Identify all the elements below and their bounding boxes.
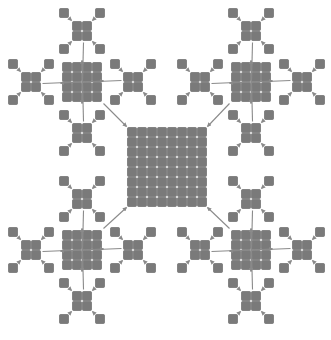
single-cell xyxy=(178,228,187,237)
cell xyxy=(158,178,167,187)
single-cell xyxy=(147,96,156,105)
cell xyxy=(188,198,197,207)
cell xyxy=(252,83,261,92)
cell xyxy=(9,96,18,105)
cell xyxy=(60,45,69,54)
cell xyxy=(178,148,187,157)
cell xyxy=(252,241,261,250)
arrow-icon xyxy=(93,210,96,213)
single-cell xyxy=(9,96,18,105)
cell xyxy=(242,231,251,240)
arrow-icon xyxy=(313,93,316,96)
cell xyxy=(63,261,72,270)
cell xyxy=(229,177,238,186)
cell xyxy=(168,158,177,167)
arrow-icon xyxy=(18,69,21,72)
single-cell xyxy=(60,279,69,288)
cell xyxy=(96,45,105,54)
cell xyxy=(242,93,251,102)
cell xyxy=(22,73,31,82)
cell xyxy=(168,178,177,187)
cell xyxy=(229,147,238,156)
cell xyxy=(262,73,271,82)
cell xyxy=(188,148,197,157)
fractal-diagram xyxy=(0,0,331,340)
single-cell xyxy=(45,60,54,69)
block-2x2 xyxy=(191,73,210,92)
cell xyxy=(148,158,157,167)
single-cell xyxy=(280,60,289,69)
cell xyxy=(147,264,156,273)
arrow-icon xyxy=(238,120,241,123)
arrow-icon xyxy=(104,208,127,229)
cell xyxy=(93,93,102,102)
cell xyxy=(124,83,133,92)
cell xyxy=(93,241,102,250)
cell xyxy=(232,83,241,92)
cell xyxy=(9,264,18,273)
cell xyxy=(124,241,133,250)
cell xyxy=(60,177,69,186)
cell xyxy=(22,251,31,260)
cell xyxy=(168,188,177,197)
cell xyxy=(232,63,241,72)
cell xyxy=(138,148,147,157)
arrow-icon xyxy=(262,144,265,147)
arrow-icon xyxy=(120,261,123,264)
single-cell xyxy=(265,279,274,288)
cell xyxy=(280,60,289,69)
cell xyxy=(252,22,261,31)
cell xyxy=(73,73,82,82)
cell xyxy=(93,73,102,82)
arrow-icon xyxy=(262,18,265,21)
cell xyxy=(147,96,156,105)
block-2x2 xyxy=(73,22,92,41)
single-cell xyxy=(229,279,238,288)
block-2x2 xyxy=(242,124,261,143)
arrow-icon xyxy=(42,261,45,264)
cell xyxy=(158,168,167,177)
cell xyxy=(252,124,261,133)
cell xyxy=(188,178,197,187)
cell xyxy=(73,292,82,301)
cell xyxy=(188,138,197,147)
cell xyxy=(252,302,261,311)
cell xyxy=(148,188,157,197)
cell xyxy=(316,96,325,105)
single-cell xyxy=(60,315,69,324)
cell xyxy=(178,128,187,137)
arrow-icon xyxy=(238,144,241,147)
cell xyxy=(148,138,157,147)
cell xyxy=(128,168,137,177)
single-cell xyxy=(96,213,105,222)
arrow-icon xyxy=(93,144,96,147)
cell xyxy=(168,198,177,207)
cell xyxy=(83,83,92,92)
block-2x2 xyxy=(22,241,41,260)
block-2x2 xyxy=(73,124,92,143)
cell xyxy=(158,128,167,137)
arrow-icon xyxy=(289,261,292,264)
single-cell xyxy=(265,213,274,222)
arrow-icon xyxy=(211,237,214,240)
cell xyxy=(262,251,271,260)
cell xyxy=(158,138,167,147)
cell xyxy=(83,73,92,82)
cell xyxy=(191,73,200,82)
cell xyxy=(252,73,261,82)
arrow-icon xyxy=(144,237,147,240)
cell xyxy=(265,213,274,222)
single-cell xyxy=(9,228,18,237)
cell xyxy=(134,251,143,260)
cell xyxy=(111,228,120,237)
cell xyxy=(148,198,157,207)
single-cell xyxy=(96,315,105,324)
arrow-icon xyxy=(42,69,45,72)
cell xyxy=(201,241,210,250)
cell xyxy=(168,128,177,137)
cell xyxy=(252,190,261,199)
cell xyxy=(198,198,207,207)
cell xyxy=(96,213,105,222)
cell xyxy=(303,251,312,260)
cell xyxy=(111,264,120,273)
